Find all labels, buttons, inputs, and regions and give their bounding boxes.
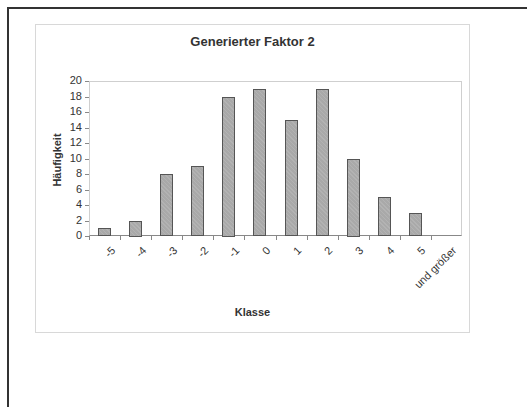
x-tick-mark (182, 236, 183, 240)
y-tick-label: 16 (52, 106, 82, 117)
bar (160, 174, 173, 236)
x-tick-mark (120, 236, 121, 240)
y-tick-label: 4 (52, 199, 82, 210)
x-tick-mark (244, 236, 245, 240)
bar (129, 221, 142, 237)
bar (347, 159, 360, 237)
y-tick-label: 18 (52, 91, 82, 102)
x-tick-mark (400, 236, 401, 240)
y-tick-mark (85, 128, 89, 129)
x-tick-mark (276, 236, 277, 240)
bar (316, 89, 329, 236)
y-tick-label: 6 (52, 184, 82, 195)
y-tick-label: 20 (52, 75, 82, 86)
x-tick-mark (89, 236, 90, 240)
bar (191, 166, 204, 236)
y-tick-label: 0 (52, 230, 82, 241)
y-tick-mark (85, 97, 89, 98)
x-tick-mark (369, 236, 370, 240)
x-tick-mark (338, 236, 339, 240)
bar (222, 97, 235, 237)
x-tick-mark (307, 236, 308, 240)
y-tick-mark (85, 190, 89, 191)
x-tick-mark (431, 236, 432, 240)
y-tick-label: 10 (52, 153, 82, 164)
bar (285, 120, 298, 236)
chart-title: Generierter Faktor 2 (35, 34, 470, 49)
y-tick-mark (85, 174, 89, 175)
y-tick-mark (85, 159, 89, 160)
y-tick-mark (85, 143, 89, 144)
y-tick-mark (85, 81, 89, 82)
x-axis-label: Klasse (35, 306, 470, 318)
y-tick-label: 14 (52, 122, 82, 133)
plot-area (89, 81, 462, 236)
y-tick-label: 12 (52, 137, 82, 148)
x-tick-mark (151, 236, 152, 240)
y-tick-mark (85, 221, 89, 222)
bar (409, 213, 422, 236)
x-tick-mark (213, 236, 214, 240)
bar (98, 228, 111, 236)
bar (378, 197, 391, 236)
bar (253, 89, 266, 236)
y-tick-mark (85, 205, 89, 206)
y-tick-label: 2 (52, 215, 82, 226)
y-tick-mark (85, 112, 89, 113)
y-tick-label: 8 (52, 168, 82, 179)
